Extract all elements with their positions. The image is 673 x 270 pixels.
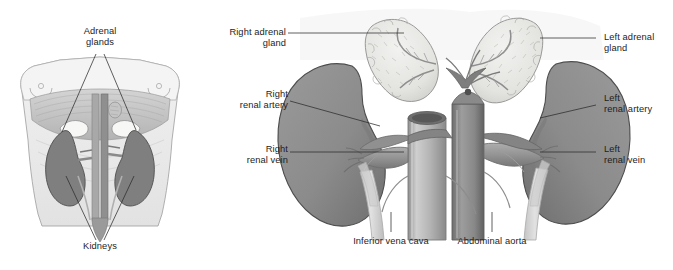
label-left-renal-artery: Left renal artery (604, 93, 673, 116)
main-kidney-illustration (278, 9, 630, 240)
inset-vena-cava (92, 94, 99, 220)
label-right-renal-artery: Right renal artery (198, 89, 288, 112)
background-wash (300, 9, 604, 60)
inset-aorta (101, 94, 108, 220)
figure-caption (0, 262, 673, 270)
label-kidneys: Kidneys (55, 241, 145, 252)
label-left-adrenal-gland: Left adrenal gland (604, 32, 673, 55)
inset-torso-illustration (21, 57, 180, 242)
label-right-adrenal-gland: Right adrenal gland (186, 27, 286, 50)
label-adrenal-glands: Adrenal glands (50, 26, 150, 49)
vena-cava-lumen-inner (412, 113, 442, 122)
inset-iliac-bifurcation (92, 218, 108, 242)
aortic-ostium (465, 89, 471, 95)
label-left-renal-vein: Left renal vein (604, 144, 673, 167)
figure-root: Adrenal glands Kidneys Right adrenal gla… (0, 0, 673, 270)
label-right-renal-vein: Right renal vein (202, 144, 288, 167)
label-abdominal-aorta: Abdominal aorta (434, 236, 550, 247)
